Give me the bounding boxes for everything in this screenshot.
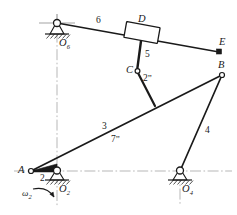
label-o4-subscript: 4 bbox=[190, 189, 193, 196]
label-link-7-double-prime: 7” bbox=[111, 135, 120, 145]
joint-a bbox=[29, 169, 34, 174]
joint-e-marker bbox=[217, 49, 222, 54]
o2-pin bbox=[54, 167, 61, 174]
label-c: C bbox=[126, 65, 133, 76]
label-o4: O4 bbox=[182, 184, 193, 195]
fixed-pivot-o6 bbox=[45, 20, 70, 39]
label-b: B bbox=[218, 60, 224, 71]
o4-pin bbox=[177, 167, 184, 174]
label-o6-subscript: 6 bbox=[67, 43, 70, 50]
label-omega-subscript: 2 bbox=[29, 193, 32, 200]
omega-2-arrow bbox=[33, 188, 54, 197]
label-omega-symbol: ω bbox=[22, 188, 28, 198]
label-o4-letter: O bbox=[182, 183, 190, 194]
label-o2-letter: O bbox=[59, 183, 67, 194]
label-o6-letter: O bbox=[59, 37, 67, 48]
link-3-bar bbox=[31, 75, 222, 171]
label-omega-2: ω2 bbox=[22, 189, 32, 198]
linkage-drawing bbox=[0, 0, 237, 215]
centerlines bbox=[14, 14, 232, 206]
label-o2: O2 bbox=[59, 184, 70, 195]
label-a: A bbox=[18, 165, 24, 176]
label-link-6: 6 bbox=[96, 16, 101, 26]
slider-block-d bbox=[124, 22, 160, 44]
label-o6: O6 bbox=[59, 38, 70, 49]
o6-pin bbox=[54, 20, 61, 27]
label-e: E bbox=[219, 37, 225, 48]
label-d: D bbox=[138, 14, 146, 25]
link-5-bar bbox=[137, 41, 141, 71]
mechanism-figure: O6 O2 O4 A B C D E 6 5 2” 3 7” 4 2 ω2 bbox=[0, 0, 237, 215]
label-o2-subscript: 2 bbox=[67, 189, 70, 196]
joint-b bbox=[220, 73, 225, 78]
joint-c bbox=[135, 69, 140, 74]
link-4-bar bbox=[180, 75, 222, 171]
label-link-2pp-prime: ” bbox=[148, 73, 152, 83]
label-link-4: 4 bbox=[205, 126, 210, 136]
label-link-2: 2 bbox=[40, 174, 45, 184]
label-link-2-double-prime: 2” bbox=[143, 74, 152, 84]
label-link-5: 5 bbox=[145, 50, 150, 60]
label-link-7pp-prime: ” bbox=[116, 134, 120, 144]
fixed-pivot-o4 bbox=[168, 167, 193, 185]
label-link-3: 3 bbox=[102, 122, 107, 132]
